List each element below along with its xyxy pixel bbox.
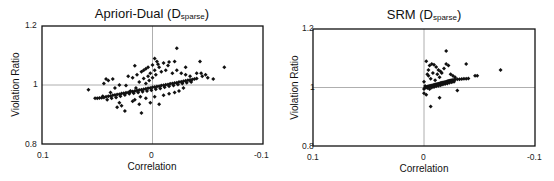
data-point xyxy=(166,64,170,68)
data-point xyxy=(117,101,121,105)
data-point xyxy=(146,74,150,78)
data-point xyxy=(86,88,90,92)
data-point xyxy=(422,80,426,84)
data-point xyxy=(424,59,428,63)
data-point xyxy=(167,60,171,64)
data-point xyxy=(109,90,113,94)
data-point xyxy=(144,96,148,100)
data-point xyxy=(142,77,146,81)
data-point xyxy=(184,73,188,77)
data-point xyxy=(137,80,141,84)
data-point xyxy=(124,84,128,88)
data-point xyxy=(162,93,166,97)
data-point xyxy=(184,65,188,69)
data-point xyxy=(154,73,158,77)
data-point xyxy=(133,64,137,68)
data-point xyxy=(137,102,141,106)
scatter-plots xyxy=(0,0,554,181)
plot-area-1 xyxy=(313,29,535,146)
data-point xyxy=(153,68,157,72)
data-point xyxy=(111,77,115,81)
data-point xyxy=(173,59,177,63)
data-point xyxy=(442,66,446,70)
data-point xyxy=(222,65,226,69)
data-point xyxy=(131,76,135,80)
data-point xyxy=(175,68,179,72)
data-point xyxy=(151,63,155,67)
data-point xyxy=(123,109,127,113)
data-point xyxy=(138,95,142,99)
data-point xyxy=(115,105,119,109)
data-point xyxy=(188,74,192,78)
data-point xyxy=(126,74,130,78)
data-point xyxy=(148,101,152,105)
data-point xyxy=(195,71,199,75)
data-point xyxy=(173,90,177,94)
data-point xyxy=(120,104,124,108)
data-point xyxy=(162,61,166,65)
data-point xyxy=(464,62,468,66)
data-point xyxy=(157,102,161,106)
data-point xyxy=(438,96,442,100)
data-point xyxy=(206,76,210,80)
data-point xyxy=(475,74,479,78)
data-point xyxy=(148,71,152,75)
data-point xyxy=(167,92,171,96)
data-point xyxy=(431,71,435,75)
data-point xyxy=(164,68,168,72)
data-point xyxy=(153,56,157,60)
data-point xyxy=(177,89,181,93)
data-point xyxy=(179,71,183,75)
data-point xyxy=(139,111,143,115)
plot-area-0 xyxy=(42,26,263,144)
data-point xyxy=(198,59,202,63)
data-point xyxy=(455,88,459,92)
data-point xyxy=(426,68,430,72)
data-point xyxy=(151,76,155,80)
data-point xyxy=(135,73,139,77)
data-point xyxy=(499,68,503,72)
data-point xyxy=(159,70,163,74)
data-point xyxy=(435,72,439,76)
data-point xyxy=(211,77,215,81)
data-point xyxy=(433,78,437,82)
data-point xyxy=(175,46,179,50)
data-point xyxy=(117,83,121,87)
data-point xyxy=(429,105,433,109)
data-point xyxy=(113,86,117,90)
data-point xyxy=(170,71,174,75)
data-point xyxy=(429,77,433,81)
data-point xyxy=(438,75,442,79)
data-point xyxy=(181,86,185,90)
data-point xyxy=(444,49,448,53)
data-point xyxy=(147,79,151,83)
data-point xyxy=(153,95,157,99)
